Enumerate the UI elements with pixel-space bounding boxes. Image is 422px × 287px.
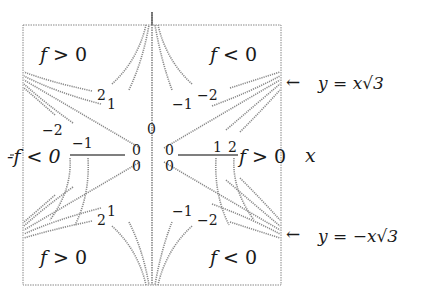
- level-label: −2: [42, 122, 63, 138]
- lower-left-contours: [24, 187, 101, 238]
- arrow-left-icon: ←: [286, 72, 300, 92]
- level-label: 1: [213, 139, 222, 155]
- asymptote-label-upper: y = x√3: [317, 73, 384, 93]
- region-label-bottom-left: f > 0: [38, 246, 87, 268]
- asymptote-label-lower: y = −x√3: [317, 226, 398, 246]
- level-label: 0: [165, 158, 174, 174]
- level-label: 0: [132, 158, 141, 174]
- arrow-left-icon: ←: [286, 224, 300, 244]
- contour-diagram: f > 0 f < 0 -f < 0 f > 0 f > 0 f < 0 x ←…: [0, 0, 422, 287]
- asymptote-line-ur: [164, 80, 280, 148]
- region-label-right: f > 0: [237, 145, 286, 167]
- level-label: −1: [172, 96, 193, 112]
- asymptote-line-lr: [164, 162, 280, 230]
- region-label-bottom-right: f < 0: [208, 246, 257, 268]
- level-label: −2: [197, 87, 218, 103]
- level-label: 2: [97, 87, 106, 103]
- upper-left-contours: [24, 72, 101, 123]
- level-label: 2: [228, 139, 237, 155]
- x-axis-label: x: [305, 144, 316, 166]
- level-label: −1: [72, 135, 93, 151]
- upper-right-contours: [212, 72, 280, 132]
- region-label-top-left: f > 0: [38, 43, 87, 65]
- level-label: 1: [107, 96, 116, 112]
- level-label: 0: [165, 142, 174, 158]
- region-label-left: -f < 0: [7, 145, 61, 167]
- level-label: −1: [172, 203, 193, 219]
- region-label-top-right: f < 0: [208, 43, 257, 65]
- level-label: 1: [107, 203, 116, 219]
- level-label: 2: [97, 212, 106, 228]
- asymptote-line-ll: [24, 162, 140, 230]
- level-label: −2: [197, 212, 218, 228]
- level-label: 0: [132, 142, 141, 158]
- level-label: 0: [147, 121, 156, 137]
